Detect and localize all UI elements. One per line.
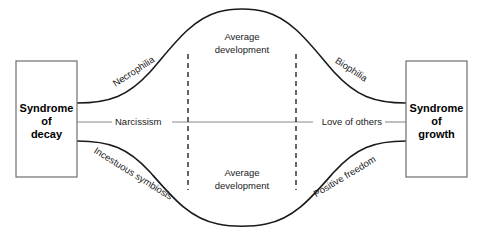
label-average-development-lower-line2: development (215, 180, 270, 191)
label-positive-freedom: Positive freedom (311, 153, 377, 199)
diagram-canvas: Syndrome of decay Syndrome of growth Nec… (0, 0, 482, 242)
label-average-development-upper-line2: development (215, 44, 270, 55)
left-node-label-line2: of (41, 115, 52, 127)
label-average-development-lower-line1: Average (224, 167, 259, 178)
label-incestuous-symbiosis: Incestuous symbiosis (92, 145, 175, 202)
label-narcissism: Narcissism (115, 116, 162, 127)
right-node-label-line1: Syndrome (410, 102, 464, 114)
left-node-label-line1: Syndrome (20, 102, 74, 114)
label-love-of-others: Love of others (322, 116, 382, 127)
diagram-svg: Syndrome of decay Syndrome of growth Nec… (0, 0, 482, 242)
label-average-development-upper-line1: Average (224, 31, 259, 42)
right-node-label-line3: growth (418, 128, 455, 140)
upper-curve (77, 9, 406, 103)
label-biophilia: Biophilia (333, 55, 370, 84)
left-node-label-line3: decay (31, 128, 63, 140)
right-node-label-line2: of (431, 115, 442, 127)
